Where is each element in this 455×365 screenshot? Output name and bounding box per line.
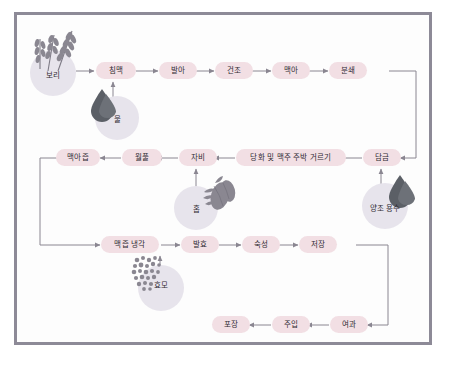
step-box-maeajeup[interactable]: 맥아즙 [56,149,100,166]
step-box-pojang[interactable]: 포장 [212,316,250,333]
ingredient-label-water: 물 [95,113,139,124]
step-box-danghwa-filter[interactable]: 당화 및 맥주 주박 거르기 [236,149,346,166]
step-box-maekjeup-naenggak[interactable]: 맥즙 냉각 [101,236,159,253]
step-box-geonjo[interactable]: 건조 [215,62,253,79]
ingredient-label-barley: 보리 [30,69,76,80]
barley-icon [28,25,80,73]
ingredient-label-yeast: 효모 [138,279,184,290]
step-box-jeojang[interactable]: 저장 [299,236,337,253]
step-box-damgeum[interactable]: 담금 [363,149,401,166]
step-box-balah[interactable]: 발아 [159,62,197,79]
step-box-yeogwa[interactable]: 여과 [330,316,368,333]
ingredient-label-brewing-water: 양조 용수 [360,202,410,213]
step-box-chimmaek[interactable]: 침맥 [96,62,136,79]
step-box-wolpul[interactable]: 월풀 [122,149,162,166]
step-box-jabi[interactable]: 자비 [179,149,217,166]
step-box-sukseong[interactable]: 숙성 [242,236,280,253]
ingredient-label-hops: 홉 [174,203,218,214]
step-box-maega[interactable]: 맥아 [272,62,310,79]
step-box-balhyo[interactable]: 발효 [181,236,219,253]
step-box-bunswae[interactable]: 분쇄 [329,62,367,79]
step-box-juip[interactable]: 주입 [272,316,310,333]
flowchart-canvas: 침맥 발아 건조 맥아 분쇄 맥아즙 월풀 자비 당화 및 맥주 주박 거르기 … [0,0,455,365]
